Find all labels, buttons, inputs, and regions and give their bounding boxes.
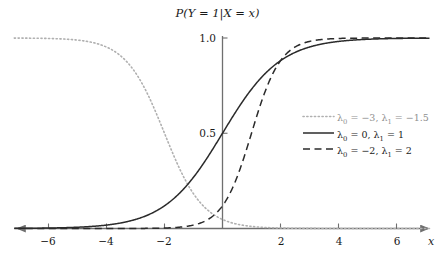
legend-item-0-label: λ0 = −3, λ1 = −1.5 — [337, 113, 429, 126]
x-tick-label-2: 2 — [278, 236, 285, 247]
legend-1-lambda0-val: = 0, — [347, 129, 370, 140]
x-tick-label--2: −2 — [156, 236, 171, 247]
legend-line-samples — [303, 117, 334, 150]
x-tick-label-4: 4 — [336, 236, 343, 247]
x-tick-label--6: −6 — [40, 236, 55, 247]
x-axis-label: x — [428, 236, 434, 247]
y-tick-label-1: 1.0 — [190, 33, 216, 44]
legend-2-lambda0-val: = −2, — [347, 145, 378, 156]
legend-item-1-label: λ0 = 0, λ1 = 1 — [337, 130, 404, 143]
legend-1-lambda1-val: = 1 — [384, 129, 404, 140]
legend-0-lambda0-val: = −3, — [347, 112, 378, 123]
x-tick-label--4: −4 — [98, 236, 113, 247]
x-tick-label-6: 6 — [394, 236, 401, 247]
chart-figure: P(Y = 1|X = x) 1.0 0.5 −6 −4 −2 2 4 6 x — [0, 0, 445, 261]
legend-item-2-label: λ0 = −2, λ1 = 2 — [337, 146, 412, 159]
legend-0-lambda1-val: = −1.5 — [392, 112, 429, 123]
legend-2-lambda1-val: = 2 — [392, 145, 412, 156]
y-axis-ticks — [223, 38, 228, 133]
y-tick-label-0: 0.5 — [190, 128, 216, 139]
